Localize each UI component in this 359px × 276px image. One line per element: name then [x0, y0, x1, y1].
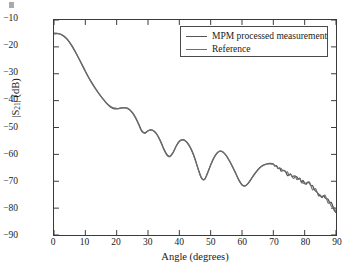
x-tick-label: 90 [332, 238, 342, 248]
figure-canvas: |S21| (dB) −10−20−30−40−50−60−70−80−90 0… [0, 0, 359, 276]
y-tick-label: −90 [0, 231, 18, 241]
y-tick-label: −50 [0, 123, 18, 133]
legend-label-reference: Reference [212, 45, 251, 55]
scan-artifact-mark [9, 2, 14, 8]
y-tick-label: −40 [0, 96, 18, 106]
legend-line-swatch-reference [186, 49, 207, 50]
series-line-mpm [54, 34, 336, 213]
y-tick-label: −30 [0, 69, 18, 79]
legend-box[interactable]: MPM processed measurement Reference [180, 26, 328, 57]
legend-item-reference[interactable]: Reference [186, 43, 322, 56]
x-axis-label: Angle (degrees) [53, 251, 337, 262]
series-line-reference [54, 33, 336, 213]
legend-line-swatch-mpm [186, 36, 207, 37]
y-tick-label: −70 [0, 177, 18, 187]
x-tick-label: 40 [174, 238, 184, 248]
x-tick-label: 60 [238, 238, 248, 248]
x-tick-label: 70 [269, 238, 279, 248]
y-tick-label: −80 [0, 204, 18, 214]
x-tick-label: 30 [143, 238, 153, 248]
y-tick-label: −10 [0, 14, 18, 24]
y-tick-label: −20 [0, 41, 18, 51]
x-tick-label: 10 [80, 238, 90, 248]
y-axis-label-prefix: |S [10, 110, 21, 118]
x-tick-label: 20 [111, 238, 121, 248]
x-tick-label: 80 [301, 238, 311, 248]
legend-item-mpm[interactable]: MPM processed measurement [186, 30, 322, 43]
x-tick-label: 0 [51, 238, 56, 248]
x-tick-label: 50 [206, 238, 216, 248]
y-tick-label: −60 [0, 150, 18, 160]
legend-label-mpm: MPM processed measurement [212, 32, 327, 42]
